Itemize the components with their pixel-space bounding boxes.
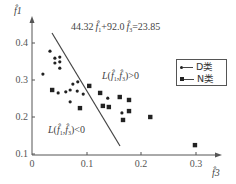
x-tick-label: 0.2 [135,158,148,169]
data-point-d [53,57,56,60]
legend-line-icon [183,67,193,68]
region-positive-label: L(f̂1,f̂3)>0 [101,69,139,82]
equation-annotation: 44.32f̂1+92.0f̂3=23.85 [71,20,160,33]
data-point-d [120,111,123,114]
data-point-n [98,91,102,95]
y-tick-label: 0.4 [16,37,29,48]
x-tick-label: 0 [30,158,35,169]
data-point-d [76,80,79,83]
y-axis-arrow-icon [30,16,35,23]
data-point-d [64,90,67,93]
data-point-n [50,88,54,92]
legend-line-icon [184,79,194,80]
data-point-d [69,88,72,91]
y-tick-label: 0.2 [16,111,29,122]
x-tick-label: 0.3 [190,158,203,169]
data-point-d [48,50,51,53]
legend-item-n: N类 [180,73,226,85]
series-n-points [50,84,197,148]
data-point-n [118,95,122,99]
region-negative-label: L(f̂1,f̂3)<0 [47,123,85,136]
y-axis-title: f̂1 [14,4,22,16]
series-d-points [41,50,123,115]
x-axis-arrow-icon [215,153,222,158]
data-point-d [41,72,44,75]
data-point-d [58,60,61,63]
legend-label: N类 [197,73,214,85]
data-point-n [127,109,131,113]
data-point-d [53,61,56,64]
data-point-d [82,92,85,95]
data-point-n [193,143,197,147]
data-point-n [121,118,125,122]
data-point-n [101,104,105,108]
legend-label: D类 [196,61,213,73]
data-point-n [87,84,91,88]
x-tick-label: 0.1 [81,158,94,169]
x-axis-title: f̂3 [212,166,220,178]
legend: D类 N类 [176,59,227,86]
data-point-n [78,106,82,110]
y-tick-label: 0.1 [16,148,29,159]
y-tick-label: 0.3 [16,74,29,85]
data-point-d [58,55,61,58]
data-point-d [58,67,61,70]
data-point-n [107,105,111,109]
data-point-d [57,91,60,94]
data-point-d [71,82,74,85]
ticks [32,43,196,155]
data-point-n [148,115,152,119]
data-point-n [127,98,131,102]
scatter-chart: 0.4 0.3 0.2 0.1 0 0.1 0.2 0.3 f̂1 f̂3 44… [0,0,236,184]
data-point-d [69,100,72,103]
data-point-d [76,90,79,93]
data-point-d [106,97,109,100]
legend-item-d: D类 [180,61,226,73]
